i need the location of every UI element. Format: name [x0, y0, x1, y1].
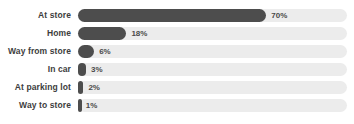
bar-row: Way to store1%	[0, 96, 347, 114]
bar-track-wrapper: 2%	[78, 81, 347, 94]
bar-value-label: 18%	[126, 27, 147, 40]
bar-row: At store70%	[0, 6, 347, 24]
bar-row: Home18%	[0, 24, 347, 42]
bar-track	[78, 99, 347, 112]
bar-value-label: 6%	[94, 45, 111, 58]
bar-row: At parking lot2%	[0, 78, 347, 96]
bar-value-label: 2%	[83, 81, 100, 94]
bar-fill	[78, 45, 94, 58]
bar-track-wrapper: 6%	[78, 45, 347, 58]
bar-row: Way from store6%	[0, 42, 347, 60]
bar-value-label: 70%	[266, 9, 287, 22]
horizontal-bar-chart: At store70%Home18%Way from store6%In car…	[0, 0, 354, 124]
bar-track	[78, 45, 347, 58]
bar-track-wrapper: 70%	[78, 9, 347, 22]
bar-rows: At store70%Home18%Way from store6%In car…	[0, 6, 347, 114]
bar-track	[78, 63, 347, 76]
bar-track-wrapper: 1%	[78, 99, 347, 112]
bar-fill	[78, 63, 86, 76]
bar-value-label: 3%	[86, 63, 103, 76]
bar-value-label: 1%	[81, 99, 98, 112]
bar-track-wrapper: 3%	[78, 63, 347, 76]
bar-row: In car3%	[0, 60, 347, 78]
bar-track-wrapper: 18%	[78, 27, 347, 40]
bar-track	[78, 81, 347, 94]
bar-category-label: At store	[0, 11, 78, 20]
bar-fill	[78, 27, 126, 40]
bar-category-label: Way to store	[0, 101, 78, 110]
bar-fill	[78, 9, 266, 22]
bar-category-label: Home	[0, 29, 78, 38]
bar-category-label: Way from store	[0, 47, 78, 56]
bar-category-label: At parking lot	[0, 83, 78, 92]
bar-category-label: In car	[0, 65, 78, 74]
